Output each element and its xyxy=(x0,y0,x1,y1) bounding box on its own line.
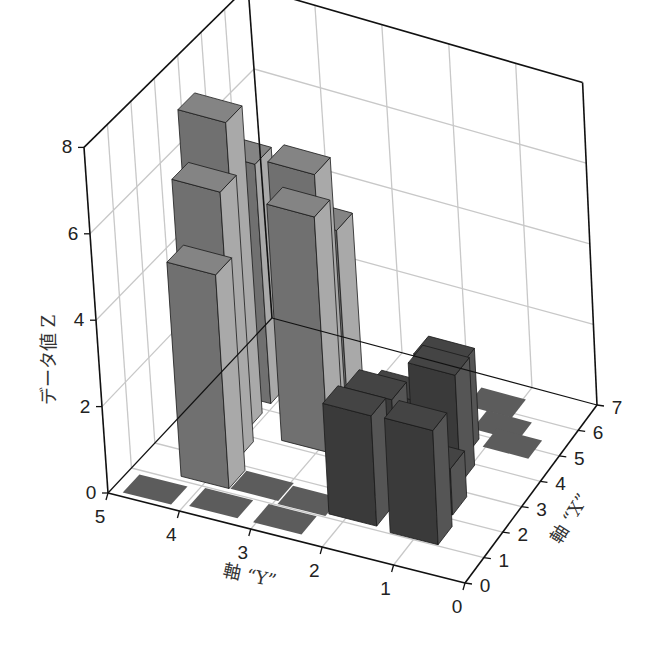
z-tick-label: 2 xyxy=(80,396,91,417)
y-tick xyxy=(320,547,322,554)
x-tick-label: 3 xyxy=(536,499,547,520)
z-tick-label: 0 xyxy=(86,482,97,503)
bar-dark xyxy=(323,386,392,526)
y-tick-label: 3 xyxy=(238,542,249,563)
x-tick xyxy=(465,583,472,584)
x-tick xyxy=(559,456,566,457)
z-axis-title: データ値 Z xyxy=(38,315,59,405)
x-tick-label: 6 xyxy=(593,422,604,443)
y-tick xyxy=(106,493,108,500)
y-tick-label: 2 xyxy=(309,560,320,581)
bar-face-left xyxy=(385,418,439,545)
y-tick xyxy=(392,565,394,572)
x-tick xyxy=(522,507,529,508)
y-tick xyxy=(177,511,179,518)
x-tick xyxy=(484,558,491,559)
y-tick-label: 0 xyxy=(452,596,463,617)
z-tick-label: 6 xyxy=(68,223,79,244)
y-tick-label: 1 xyxy=(380,578,391,599)
x-tick xyxy=(540,481,547,482)
x-tick xyxy=(503,532,510,533)
y-axis-title: 軸 “Y” xyxy=(221,559,278,591)
x-tick xyxy=(597,405,604,406)
x-tick-label: 1 xyxy=(499,550,510,571)
z-tick-label: 8 xyxy=(62,136,73,157)
x-tick-label: 2 xyxy=(517,524,528,545)
bar-dark xyxy=(385,401,453,545)
bar3d-chart: 0246801234501234567 データ値 Z 軸 “Y” 軸 “X” xyxy=(0,0,662,653)
x-axis-title: 軸 “X” xyxy=(546,489,593,547)
x-tick-label: 4 xyxy=(555,473,566,494)
chart-canvas: 0246801234501234567 データ値 Z 軸 “Y” 軸 “X” xyxy=(0,0,662,653)
y-tick xyxy=(249,529,251,536)
y-tick-label: 4 xyxy=(166,524,177,545)
z-tick-label: 4 xyxy=(74,309,85,330)
x-tick-label: 0 xyxy=(480,575,491,596)
x-tick xyxy=(578,430,585,431)
bar-face-left xyxy=(323,403,377,526)
x-tick-label: 7 xyxy=(612,397,623,418)
y-tick-label: 5 xyxy=(95,506,106,527)
y-tick xyxy=(463,583,465,590)
x-tick-label: 5 xyxy=(574,448,585,469)
